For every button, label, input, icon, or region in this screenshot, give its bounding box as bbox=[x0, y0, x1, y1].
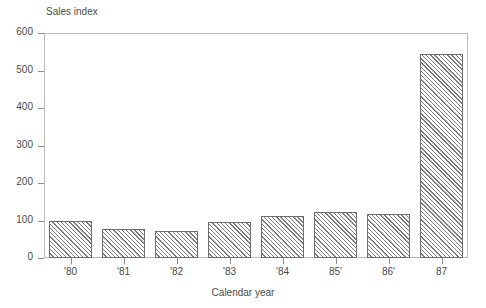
x-axis-tick-label: '83 bbox=[223, 266, 236, 277]
y-axis-tick-label: 100 bbox=[16, 214, 33, 225]
x-axis-tick-mark bbox=[389, 258, 390, 264]
x-axis-tick-mark bbox=[283, 258, 284, 264]
y-axis-title: Sales index bbox=[46, 6, 98, 17]
x-axis-tick-label: 85' bbox=[329, 266, 342, 277]
sales-index-bar-chart: Sales index 0100200300400500600 '80'81'8… bbox=[0, 0, 486, 308]
bar bbox=[367, 214, 410, 258]
bar bbox=[155, 231, 198, 258]
x-axis-tick-label: '84 bbox=[276, 266, 289, 277]
bar bbox=[420, 54, 463, 258]
x-axis-tick-label: 86' bbox=[382, 266, 395, 277]
bar bbox=[102, 229, 145, 258]
bar bbox=[261, 216, 304, 258]
x-axis-tick-mark bbox=[124, 258, 125, 264]
x-axis-tick-mark bbox=[177, 258, 178, 264]
bar bbox=[208, 222, 251, 258]
bars-layer bbox=[44, 33, 468, 258]
bar bbox=[314, 212, 357, 258]
x-axis-tick-mark bbox=[442, 258, 443, 264]
x-axis-tick-label: 87 bbox=[436, 266, 447, 277]
x-axis-tick-label: '80 bbox=[64, 266, 77, 277]
y-axis-tick-label: 300 bbox=[16, 139, 33, 150]
x-axis-title: Calendar year bbox=[0, 287, 486, 298]
x-axis-tick-mark bbox=[336, 258, 337, 264]
x-axis-tick-label: '81 bbox=[117, 266, 130, 277]
y-axis-tick-label: 200 bbox=[16, 176, 33, 187]
y-axis-tick-label: 400 bbox=[16, 101, 33, 112]
x-axis-tick-mark bbox=[71, 258, 72, 264]
x-axis-tick-label: '82 bbox=[170, 266, 183, 277]
x-axis-tick-mark bbox=[230, 258, 231, 264]
y-axis-tick-label: 600 bbox=[16, 26, 33, 37]
y-axis-tick-label: 500 bbox=[16, 64, 33, 75]
y-axis-tick-label: 0 bbox=[27, 251, 33, 262]
bar bbox=[49, 221, 92, 259]
